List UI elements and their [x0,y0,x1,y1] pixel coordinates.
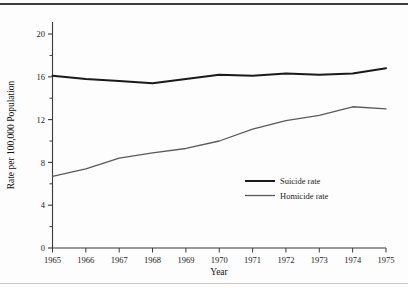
chart-series-group [53,68,387,176]
y-tick-label-8: 8 [41,158,45,168]
y-tick-label-16: 16 [37,72,46,82]
y-tick-label-20: 20 [37,29,46,39]
x-axis-title: Year [210,267,228,277]
y-tick-label-12: 12 [37,115,46,125]
x-tick-label-1973: 1973 [311,255,328,265]
y-tick-label-4: 4 [41,200,46,210]
x-tick-label-1970: 1970 [211,255,228,265]
x-tick-label-1969: 1969 [177,255,194,265]
top-divider-rule [0,3,408,5]
legend-label-homicide-rate: Homicide rate [280,191,329,201]
figure-page: 048121620 196519661967196819691970197119… [0,0,408,288]
x-tick-label-1967: 1967 [111,255,128,265]
x-axis-ticks [53,248,387,253]
series-line-suicide-rate [53,68,387,83]
x-tick-label-1974: 1974 [344,255,362,265]
x-tick-label-1965: 1965 [44,255,61,265]
x-tick-label-1971: 1971 [244,255,261,265]
y-axis-title: Rate per 100,000 Population [6,80,16,189]
x-tick-label-1972: 1972 [277,255,294,265]
chart-legend: Suicide rateHomicide rate [245,176,329,201]
x-tick-label-1968: 1968 [144,255,161,265]
x-axis-tick-labels: 1965196619671968196919701971197219731974… [44,255,395,265]
legend-label-suicide-rate: Suicide rate [280,176,321,186]
y-tick-label-0: 0 [41,243,45,253]
series-line-homicide-rate [53,107,387,177]
x-tick-label-1966: 1966 [77,255,94,265]
bottom-divider-rule [0,283,408,284]
y-axis-tick-labels: 048121620 [37,29,46,253]
chart-canvas: 048121620 196519661967196819691970197119… [0,8,408,280]
x-tick-label-1975: 1975 [378,255,395,265]
line-chart-figure: 048121620 196519661967196819691970197119… [0,8,408,280]
